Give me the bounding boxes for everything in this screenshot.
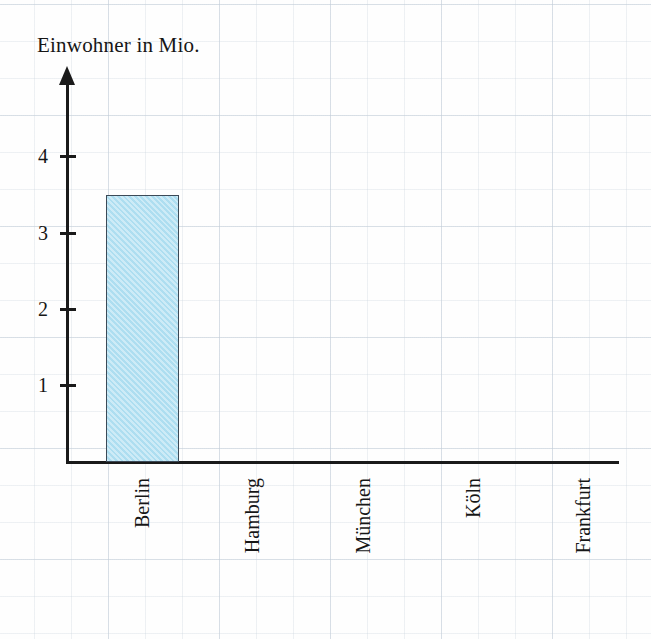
x-axis-label-berlin: Berlin [132, 478, 152, 528]
chart-title: Einwohner in Mio. [37, 33, 200, 58]
x-axis-label-frankfurt: Frankfurt [573, 478, 593, 554]
y-axis-line [66, 82, 69, 463]
y-tick-mark-1 [60, 384, 76, 387]
y-tick-mark-3 [60, 232, 76, 235]
x-axis-label-hamburg: Hamburg [242, 478, 262, 553]
x-axis-label-münchen: München [353, 478, 373, 554]
y-axis-arrow-icon [59, 66, 75, 85]
y-tick-label-2: 2 [18, 298, 48, 321]
y-tick-label-1: 1 [18, 374, 48, 397]
y-tick-mark-2 [60, 308, 76, 311]
y-tick-label-4: 4 [18, 145, 48, 168]
chart-canvas: Einwohner in Mio. 4 3 2 1 BerlinHamburgM… [0, 0, 651, 639]
x-axis-label-köln: Köln [463, 478, 483, 518]
y-tick-mark-4 [60, 155, 76, 158]
bar-berlin [106, 195, 179, 462]
y-tick-label-3: 3 [18, 222, 48, 245]
